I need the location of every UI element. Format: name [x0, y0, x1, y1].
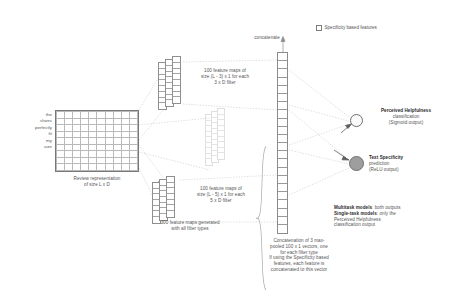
singletask-desc: : only the [377, 211, 396, 216]
output-node-text-specificity [349, 156, 364, 171]
review-representation-grid [55, 110, 139, 172]
output-label-perceived-helpfulness: Perceived Helpfulness classification (Si… [364, 108, 448, 125]
square-outline-icon [316, 25, 322, 31]
legend: Specificity based features [316, 18, 377, 36]
concatenation-caption: Concatenation of 3 max- pooled 100 x 1 v… [238, 238, 360, 273]
output-label-text-specificity: Text Specificity prediction (ReLU output… [369, 155, 449, 172]
review-representation-caption: Review representation of size L x D [44, 176, 150, 188]
diagram-canvas: Specificity based features concatenate t… [0, 0, 449, 300]
multitask-desc: : both outputs [372, 205, 401, 210]
output-sub: (Sigmoid output) [364, 120, 448, 126]
model-note-line: classification output [334, 222, 448, 228]
multitask-label: Multitask models [334, 205, 372, 210]
concatenated-vector [277, 52, 288, 234]
feature-maps-bottom-caption: 100 feature maps of size (L - 5) x 1 for… [180, 186, 262, 203]
feature-maps-top-caption: 100 feature maps of size (L - 3) x 1 for… [186, 68, 264, 85]
singletask-label: Single-task models [334, 211, 377, 216]
input-word: size [12, 144, 52, 150]
feature-map-stack-middle [205, 108, 231, 168]
feature-maps-total-caption: 300 feature maps generated with all filt… [128, 220, 252, 232]
caption-line: 5 x D filter [180, 198, 262, 204]
caption-line: of size L x D [44, 182, 150, 188]
legend-label: Specificity based features [325, 25, 377, 30]
model-note: Multitask models: both outputs Single-ta… [334, 205, 448, 228]
input-word-labels: the shoes perfectly fit my size [12, 112, 52, 150]
output-node-perceived-helpfulness [350, 114, 363, 127]
caption-line: with all filter types [128, 226, 252, 232]
output-sub: (ReLU output) [369, 167, 449, 173]
concatenate-label: concatenate [238, 35, 296, 41]
caption-line: 3 x D filter [186, 80, 264, 86]
caption-line: concatenated to this vector [238, 267, 360, 273]
